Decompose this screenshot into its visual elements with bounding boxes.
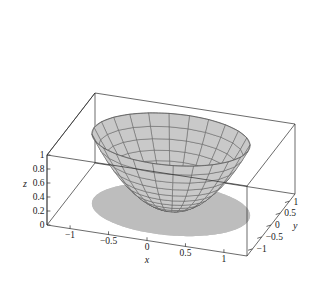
x-tick-label: 1	[222, 254, 227, 264]
y-axis-title: y	[292, 220, 298, 231]
surface-patch	[169, 151, 184, 163]
surface-patch	[154, 150, 169, 161]
z-tick-label: 1	[40, 150, 45, 160]
surface-patch	[150, 126, 169, 139]
x-tick-label: −0.5	[100, 236, 117, 246]
surface-patch	[172, 190, 187, 196]
y-tick-label: 0	[275, 220, 280, 230]
surface-patch	[169, 113, 190, 128]
surface-patch	[172, 205, 182, 208]
y-tick-label: 1	[293, 197, 298, 207]
x-tick-label: 0	[145, 242, 150, 252]
surface-patch	[172, 201, 184, 205]
z-tick-label: 0.6	[33, 178, 45, 188]
z-axis-title: z	[22, 178, 27, 189]
x-tick-label: −1	[65, 230, 75, 240]
surface-patch	[169, 127, 188, 141]
surface-patch	[152, 139, 169, 151]
surface-patch	[173, 166, 194, 175]
surface-patch	[173, 183, 190, 190]
surface-plot-figure: −1−0.500.51x10.50−0.5−1y10.80.60.40.20z	[0, 0, 320, 285]
z-tick-label: 0.4	[33, 192, 45, 202]
x-axis-title: x	[144, 254, 150, 265]
y-tick-label: −1	[257, 244, 267, 254]
z-tick-label: 0	[40, 220, 45, 230]
plot-canvas: −1−0.500.51x10.50−0.5−1y10.80.60.40.20z	[0, 0, 320, 285]
surface-patch	[172, 196, 186, 201]
y-tick-label: 0.5	[284, 208, 296, 218]
y-tick-label: −0.5	[266, 232, 283, 242]
surface-patch	[149, 113, 170, 127]
surface-patch	[169, 139, 186, 152]
x-tick-label: 0.5	[180, 248, 192, 258]
z-tick-label: 0.8	[33, 164, 45, 174]
z-tick-label: 0.2	[33, 206, 45, 216]
